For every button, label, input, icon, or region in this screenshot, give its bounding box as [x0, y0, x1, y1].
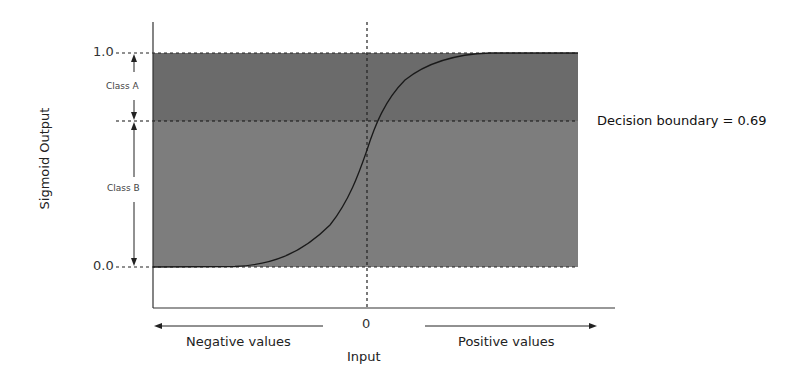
y-tick-bottom: 0.0 — [93, 258, 114, 273]
class-b-arrowhead-up — [131, 122, 137, 130]
class-a-region — [153, 53, 578, 121]
positive-values-label: Positive values — [458, 334, 555, 349]
x-tick-zero: 0 — [362, 316, 370, 331]
positive-arrowhead — [589, 323, 597, 329]
negative-values-label: Negative values — [186, 334, 291, 349]
class-b-region — [153, 121, 578, 267]
y-tick-top: 1.0 — [93, 44, 114, 59]
class-a-label: Class A — [106, 81, 139, 91]
class-b-label: Class B — [107, 183, 140, 193]
x-axis-title: Input — [347, 349, 381, 364]
class-b-arrowhead-down — [131, 258, 137, 266]
class-a-arrowhead-down — [131, 112, 137, 120]
y-axis-title: Sigmoid Output — [37, 107, 52, 211]
decision-boundary-label: Decision boundary = 0.69 — [597, 113, 767, 128]
class-a-arrowhead-up — [131, 54, 137, 62]
negative-arrowhead — [154, 323, 162, 329]
